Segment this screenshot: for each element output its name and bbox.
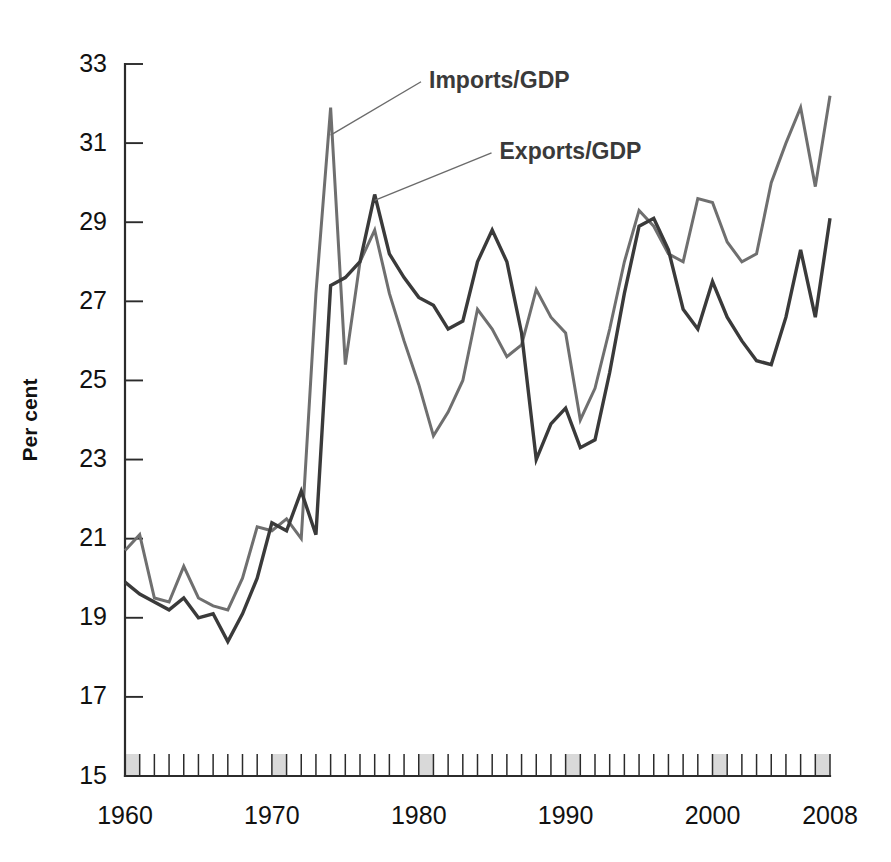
series-line-imports-gdp bbox=[125, 96, 830, 610]
annotations-group: Imports/GDPExports/GDP bbox=[331, 67, 642, 201]
annotation-label-0: Imports/GDP bbox=[429, 67, 570, 93]
y-axis-tick-labels: 15171921232527293133 bbox=[79, 49, 107, 789]
annotation-label-1: Exports/GDP bbox=[500, 138, 642, 164]
y-tick-label-31: 31 bbox=[79, 128, 107, 156]
y-tick-label-33: 33 bbox=[79, 49, 107, 77]
chart-container: 15171921232527293133 1960197019801990200… bbox=[0, 0, 891, 862]
y-tick-label-23: 23 bbox=[79, 444, 107, 472]
x-tick-label-1980: 1980 bbox=[391, 801, 447, 829]
y-tick-label-21: 21 bbox=[79, 523, 107, 551]
x-tick-shade-1970 bbox=[272, 754, 287, 776]
x-tick-shade-1980 bbox=[419, 754, 434, 776]
x-tick-shade-2008 bbox=[815, 754, 830, 776]
x-tick-label-1960: 1960 bbox=[97, 801, 153, 829]
y-axis-title: Per cent bbox=[18, 379, 41, 462]
annotation-leader-0 bbox=[331, 82, 421, 135]
x-tick-label-1990: 1990 bbox=[538, 801, 594, 829]
y-tick-label-15: 15 bbox=[79, 761, 107, 789]
y-tick-label-17: 17 bbox=[79, 681, 107, 709]
annotation-leader-1 bbox=[375, 153, 492, 201]
data-series-group bbox=[125, 96, 830, 642]
x-tick-shade-1960 bbox=[125, 754, 140, 776]
x-tick-shade-1990 bbox=[566, 754, 581, 776]
x-axis-tick-labels: 196019701980199020002008 bbox=[97, 801, 858, 829]
y-tick-label-27: 27 bbox=[79, 286, 107, 314]
series-line-exports-gdp bbox=[125, 195, 830, 642]
line-chart: 15171921232527293133 1960197019801990200… bbox=[0, 0, 891, 862]
y-tick-label-29: 29 bbox=[79, 207, 107, 235]
x-tick-shade-2000 bbox=[713, 754, 728, 776]
y-tick-label-19: 19 bbox=[79, 602, 107, 630]
x-tick-label-1970: 1970 bbox=[244, 801, 300, 829]
y-tick-label-25: 25 bbox=[79, 365, 107, 393]
x-tick-label-2008: 2008 bbox=[802, 801, 858, 829]
x-tick-label-2000: 2000 bbox=[685, 801, 741, 829]
y-axis-ticks bbox=[125, 64, 143, 776]
